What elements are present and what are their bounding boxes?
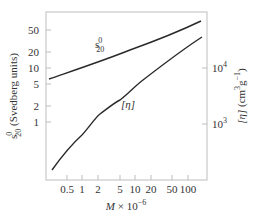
x-tick-50: 50 <box>167 183 179 195</box>
y-left-tick-2: 2 <box>34 100 40 112</box>
x-tick-1: 1 <box>79 183 85 195</box>
y-left-axis-title: s020 (Svedberg units) <box>5 53 23 139</box>
y-left-tick-20: 20 <box>28 46 40 58</box>
y-left-tick-50: 50 <box>28 24 40 36</box>
right-axis-ticks <box>202 68 207 124</box>
left-axis-tick-labels: 1 2 5 10 20 50 <box>28 24 40 128</box>
s20-curve-label: s020 <box>95 36 104 54</box>
x-tick-10: 10 <box>130 183 142 195</box>
right-axis-tick-labels: 104 103 <box>212 60 227 130</box>
eta-curve-label: [η] <box>121 98 135 110</box>
y-left-tick-10: 10 <box>28 62 40 74</box>
y-left-tick-1: 1 <box>34 116 40 128</box>
y-right-tick-1e4: 104 <box>212 60 227 74</box>
left-axis-ticks <box>46 30 51 122</box>
y-right-tick-1e3: 103 <box>212 116 227 130</box>
x-tick-100: 100 <box>180 183 197 195</box>
x-tick-20: 20 <box>146 183 158 195</box>
chart-canvas: 1 2 5 10 20 50 0.5 1 2 5 10 20 50 100 10… <box>0 0 257 216</box>
x-tick-0.5: 0.5 <box>60 183 74 195</box>
plot-frame <box>46 12 207 180</box>
y-left-tick-5: 5 <box>34 78 40 90</box>
s20-curve <box>49 21 201 79</box>
x-axis-title: M × 10−6 <box>105 198 146 212</box>
y-right-axis-title: [η] (cm3g−1) <box>233 68 248 124</box>
x-axis-ticks <box>67 175 188 180</box>
x-axis-tick-labels: 0.5 1 2 5 10 20 50 100 <box>60 183 197 195</box>
x-tick-5: 5 <box>117 183 123 195</box>
x-tick-2: 2 <box>95 183 101 195</box>
